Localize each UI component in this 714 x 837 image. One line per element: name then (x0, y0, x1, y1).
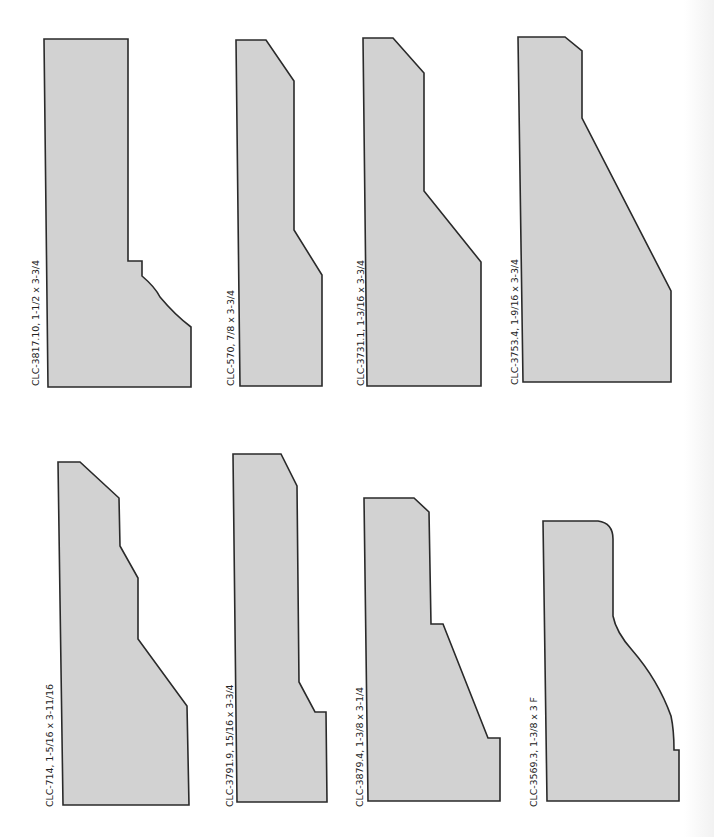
profile-clc-3817-10 (44, 39, 191, 387)
profile-clc-3569-3 (543, 521, 679, 801)
profile-clc-714 (58, 462, 189, 805)
profile-clc-3731-1 (363, 38, 481, 386)
profile-label-clc-3753-4: CLC-3753.4, 1-9/16 x 3-3/4 (509, 259, 520, 385)
profile-clc-3791-9 (233, 454, 327, 802)
profile-label-clc-3791-9: CLC-3791.9, 15/16 x 3-3/4 (224, 684, 235, 807)
profile-label-clc-714: CLC-714, 1-5/16 x 3-11/16 (44, 684, 55, 807)
page-edge-shadow (684, 0, 714, 837)
profile-label-clc-3731-1: CLC-3731.1, 1-3/16 x 3-3/4 (355, 260, 366, 386)
profile-clc-3753-4 (518, 37, 671, 382)
profile-label-clc-3569-3: CLC-3569.3, 1-3/8 x 3 F (528, 697, 539, 807)
molding-profile-sheet: CLC-3817.10, 1-1/2 x 3-3/4 CLC-570, 7/8 … (0, 0, 714, 837)
profile-label-clc-3879-4: CLC-3879.4, 1-3/8 x 3-1/4 (354, 687, 365, 807)
profile-label-clc-570: CLC-570, 7/8 x 3-3/4 (225, 290, 236, 386)
profile-clc-570 (236, 40, 322, 386)
profile-label-clc-3817-10: CLC-3817.10, 1-1/2 x 3-3/4 (30, 260, 41, 386)
profile-clc-3879-4 (364, 498, 500, 801)
